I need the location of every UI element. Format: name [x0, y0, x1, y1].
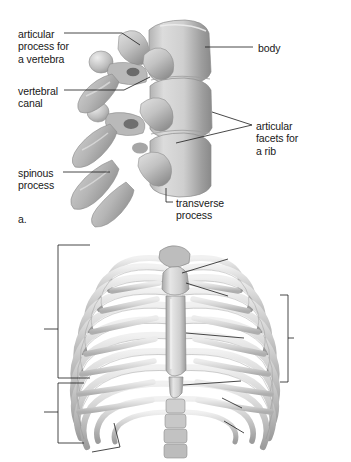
label-vertebral-body: body — [258, 42, 280, 54]
label-vertebral-canal: vertebral canal — [18, 85, 58, 110]
thoracic-cage-illustration — [0, 235, 351, 462]
spinous-processes — [71, 74, 134, 227]
label-articular-process-for-a-vertebra: articular process for a vertebra — [18, 28, 69, 65]
figure-b-thoracic-cage: 1 2 3 4 5 6 7 8 9 10 11 12 true ribs fal… — [0, 235, 351, 462]
thoracic-vertebra-shape — [159, 246, 190, 267]
transverse-processes — [87, 31, 174, 187]
bracket-sternum — [280, 295, 288, 382]
xiphoid-process-shape — [169, 377, 183, 398]
panel-letter-a: a. — [18, 213, 27, 225]
leader-floating-ribs-11 — [92, 447, 120, 452]
manubrium-shape — [162, 266, 189, 295]
label-articular-facets-for-a-rib: articular facets for a rib — [256, 120, 298, 157]
lower-costal-column — [164, 399, 187, 458]
label-spinous-process: spinous process — [18, 167, 54, 192]
label-transverse-process: transverse process — [176, 197, 224, 222]
figure-a-vertebrae: articular process for a vertebra vertebr… — [0, 0, 351, 235]
sternum-body-shape — [166, 296, 186, 376]
